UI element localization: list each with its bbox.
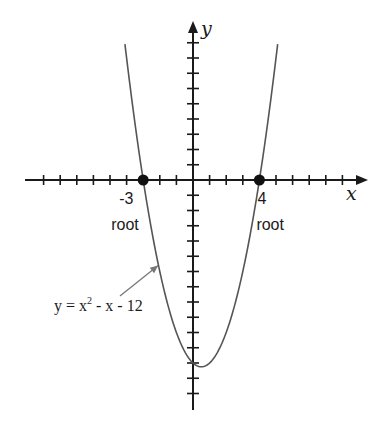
equation-annotation: y = x2 - x - 12: [54, 265, 158, 315]
root-point: [138, 175, 149, 186]
y-axis-label: y: [200, 17, 212, 39]
roots: -3root4root: [111, 175, 284, 234]
y-axis-arrowhead: [188, 21, 198, 33]
root-value-label: 4: [257, 190, 266, 207]
axes: x y: [25, 17, 368, 410]
root-text-label: root: [111, 216, 139, 233]
root-value-label: -3: [119, 190, 133, 207]
x-axis-arrowhead: [356, 175, 368, 185]
x-axis-label: x: [346, 182, 357, 204]
equation-label: y = x2 - x - 12: [54, 295, 143, 315]
equation-main: y = x: [54, 297, 87, 315]
parabola-chart: x y -3root4root y = x2 - x - 12: [0, 0, 382, 424]
equation-rest: - x - 12: [92, 297, 143, 314]
parabola-curve: [125, 44, 278, 367]
root-text-label: root: [256, 216, 284, 233]
root-point: [254, 175, 265, 186]
